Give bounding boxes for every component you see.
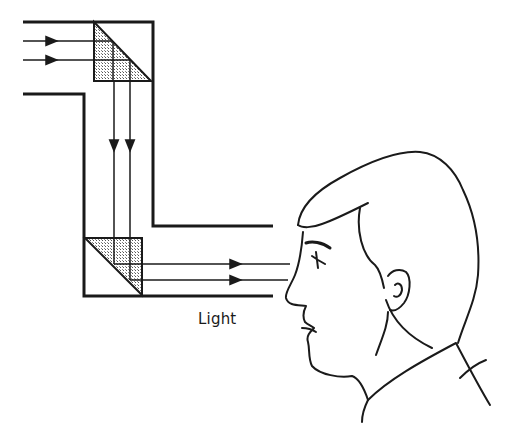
hairline bbox=[298, 203, 368, 227]
lower-prism bbox=[85, 238, 142, 295]
ear bbox=[388, 270, 410, 311]
eye bbox=[312, 252, 325, 268]
collar bbox=[368, 343, 490, 405]
periscope-tube bbox=[23, 22, 273, 296]
face-profile bbox=[286, 232, 368, 400]
jaw bbox=[376, 312, 388, 355]
light-rays bbox=[23, 41, 290, 280]
upper-prism bbox=[94, 22, 151, 81]
observer-head bbox=[286, 152, 490, 422]
periscope-diagram bbox=[0, 0, 518, 442]
light-label: Light bbox=[198, 310, 236, 328]
eyebrow bbox=[306, 242, 330, 248]
